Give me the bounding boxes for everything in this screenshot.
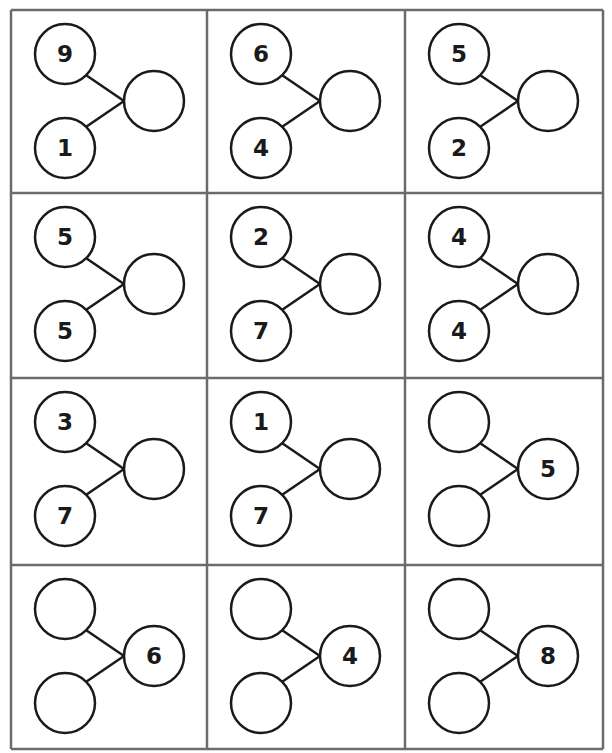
part-number-bottom: 7 — [57, 503, 73, 529]
connector-line-bottom — [480, 469, 518, 495]
connector-line-top — [282, 258, 320, 284]
part-number-top: 6 — [253, 41, 269, 67]
part-circle-top[interactable] — [429, 392, 489, 452]
part-circle-bottom[interactable] — [429, 486, 489, 546]
part-number-top: 9 — [57, 41, 73, 67]
number-bond-cell: 37 — [35, 392, 184, 546]
part-number-bottom: 2 — [451, 135, 467, 161]
part-number-top: 5 — [57, 224, 73, 250]
connector-line-top — [86, 443, 124, 469]
whole-circle[interactable] — [320, 439, 380, 499]
number-bond-cell: 4 — [231, 579, 380, 733]
part-number-bottom: 7 — [253, 503, 269, 529]
connector-line-top — [480, 75, 518, 101]
connector-line-top — [480, 258, 518, 284]
connector-line-top — [282, 443, 320, 469]
connector-line-bottom — [282, 656, 320, 682]
part-number-top: 5 — [451, 41, 467, 67]
number-bond-cell: 27 — [231, 207, 380, 361]
part-number-bottom: 1 — [57, 135, 73, 161]
connector-line-top — [480, 443, 518, 469]
connector-line-bottom — [86, 469, 124, 495]
connector-line-bottom — [282, 284, 320, 310]
part-number-top: 4 — [451, 224, 467, 250]
whole-circle[interactable] — [320, 254, 380, 314]
connector-line-bottom — [480, 284, 518, 310]
connector-line-bottom — [480, 101, 518, 127]
number-bond-cell: 6 — [35, 579, 184, 733]
part-number-bottom: 5 — [57, 318, 73, 344]
whole-circle[interactable] — [124, 71, 184, 131]
part-number-top: 1 — [253, 409, 269, 435]
whole-number: 6 — [146, 643, 162, 669]
number-bond-cell: 5 — [429, 392, 578, 546]
connector-line-bottom — [282, 101, 320, 127]
number-bond-cell: 91 — [35, 24, 184, 178]
connector-line-top — [86, 75, 124, 101]
connector-line-top — [86, 630, 124, 656]
connector-line-top — [86, 258, 124, 284]
part-circle-bottom[interactable] — [35, 673, 95, 733]
number-bond-cell: 17 — [231, 392, 380, 546]
number-bond-cell: 52 — [429, 24, 578, 178]
connector-line-bottom — [480, 656, 518, 682]
part-circle-bottom[interactable] — [429, 673, 489, 733]
part-number-bottom: 4 — [451, 318, 467, 344]
connector-line-top — [480, 630, 518, 656]
connector-line-bottom — [86, 656, 124, 682]
part-number-top: 2 — [253, 224, 269, 250]
whole-circle[interactable] — [320, 71, 380, 131]
whole-circle[interactable] — [124, 254, 184, 314]
part-circle-top[interactable] — [429, 579, 489, 639]
part-circle-bottom[interactable] — [231, 673, 291, 733]
part-number-bottom: 7 — [253, 318, 269, 344]
connector-line-bottom — [86, 284, 124, 310]
connector-line-bottom — [86, 101, 124, 127]
whole-circle[interactable] — [124, 439, 184, 499]
whole-circle[interactable] — [518, 254, 578, 314]
part-number-bottom: 4 — [253, 135, 269, 161]
number-bond-cell: 44 — [429, 207, 578, 361]
number-bond-cell: 8 — [429, 579, 578, 733]
connector-line-bottom — [282, 469, 320, 495]
number-bond-worksheet: 91645255274437175648 — [0, 0, 612, 753]
connector-line-top — [282, 630, 320, 656]
part-circle-top[interactable] — [35, 579, 95, 639]
connector-line-top — [282, 75, 320, 101]
part-circle-top[interactable] — [231, 579, 291, 639]
number-bond-cell: 64 — [231, 24, 380, 178]
whole-circle[interactable] — [518, 71, 578, 131]
number-bond-cell: 55 — [35, 207, 184, 361]
whole-number: 8 — [540, 643, 556, 669]
whole-number: 5 — [540, 456, 556, 482]
whole-number: 4 — [342, 643, 358, 669]
part-number-top: 3 — [57, 409, 73, 435]
